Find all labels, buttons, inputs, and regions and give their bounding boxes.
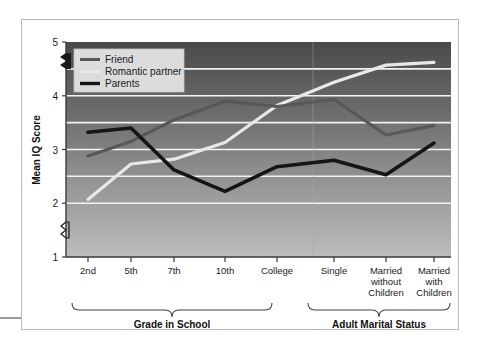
x-label-married-without-l1: Married [370,265,402,276]
x-label-married-without-l2: without [370,276,401,287]
y-tick-label-5: 5 [52,37,58,48]
y-axis-title: Mean IQ Score [31,115,42,185]
y-tick-label-2: 2 [52,198,58,209]
x-label-2nd: 2nd [80,265,96,276]
bracket-grade-in-school [72,303,272,317]
bracket-adult-marital-status [308,303,450,317]
x-label-7th: 7th [167,265,180,276]
x-label-married-with-l2: with [425,276,443,287]
group-label-grade-in-school: Grade in School [134,319,211,330]
x-label-college: College [261,265,293,276]
line-chart: 5 4 3 2 1 Mean IQ Score 2nd 5th 7th 10th… [0,0,495,353]
y-tick-label-1: 1 [52,252,58,263]
legend-label-friend: Friend [105,54,133,65]
legend: Friend Romantic partner Parents [74,49,184,92]
x-label-10th: 10th [216,265,235,276]
y-tick-label-4: 4 [52,91,58,102]
x-tick-marks [88,257,434,262]
legend-label-romantic-partner: Romantic partner [105,66,182,77]
x-label-married-with-l1: Married [418,265,450,276]
group-label-adult-marital-status: Adult Marital Status [332,319,426,330]
x-label-married-without-l3: Children [368,287,403,298]
x-tick-labels: 2nd 5th 7th 10th College Single Married … [80,265,452,298]
y-tick-label-3: 3 [52,145,58,156]
x-label-5th: 5th [124,265,137,276]
figure-container: 5 4 3 2 1 Mean IQ Score 2nd 5th 7th 10th… [0,0,495,353]
group-brackets [72,303,450,317]
legend-label-parents: Parents [105,78,139,89]
x-label-single: Single [321,265,347,276]
x-label-married-with-l3: Children [416,287,451,298]
